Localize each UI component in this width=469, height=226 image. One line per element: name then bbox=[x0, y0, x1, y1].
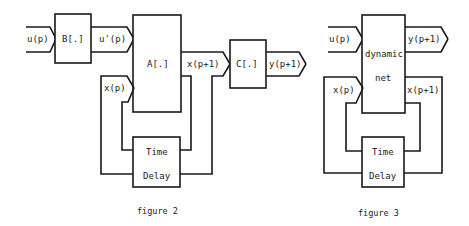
time-delay-label-2: Delay bbox=[143, 171, 171, 181]
signal-label-x-next: x(p+1) bbox=[187, 59, 220, 69]
signal-label-u: u(p) bbox=[27, 34, 49, 44]
signal-label-y: y(p+1) bbox=[408, 34, 441, 44]
signal-label-u: u(p) bbox=[329, 34, 351, 44]
signal-label-x-next: x(p+1) bbox=[407, 85, 440, 95]
dynamic-net-block bbox=[362, 15, 405, 113]
block-b-label: B[.] bbox=[62, 34, 84, 44]
dynamic-net-label-2: net bbox=[375, 73, 391, 83]
signal-label-y: y(p+1) bbox=[269, 59, 302, 69]
block-a-label: A[.] bbox=[147, 59, 169, 69]
time-delay-label-1: Time bbox=[372, 147, 394, 157]
signal-label-u-prime: u'(p) bbox=[99, 34, 126, 44]
time-delay-label-2: Delay bbox=[369, 171, 397, 181]
figure-2-caption: figure 2 bbox=[137, 206, 178, 216]
signal-label-x: x(p) bbox=[104, 83, 126, 93]
figure-2: u(p) B[.] u'(p) A[.] x(p) x(p+1) C[.] bbox=[26, 14, 306, 216]
signal-label-x: x(p) bbox=[333, 85, 355, 95]
figure-3: u(p) dynamic net y(p+1) x(p) x(p+1) Time… bbox=[324, 15, 448, 218]
figure-3-caption: figure 3 bbox=[358, 208, 399, 218]
block-c-label: C[.] bbox=[236, 59, 258, 69]
dynamic-net-label-1: dynamic bbox=[365, 49, 403, 59]
time-delay-label-1: Time bbox=[146, 147, 168, 157]
arrow-next-state bbox=[180, 52, 230, 174]
block-diagrams: u(p) B[.] u'(p) A[.] x(p) x(p+1) C[.] bbox=[0, 0, 469, 226]
